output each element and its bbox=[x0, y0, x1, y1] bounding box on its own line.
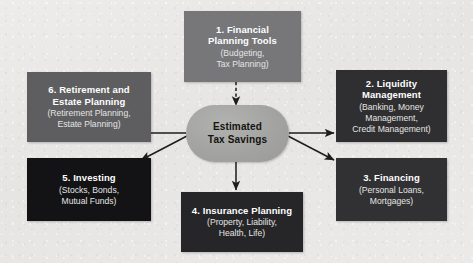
node-sub-line1: (Retirement Planning, bbox=[47, 108, 130, 118]
node-title: 6. Retirement and Estate Planning bbox=[48, 84, 129, 107]
node-title-line2: Planning Tools bbox=[208, 35, 277, 46]
hub-label: Estimated Tax Savings bbox=[208, 121, 267, 146]
node-title-line2: Management bbox=[362, 89, 421, 100]
node-subtitle: (Property, Liability, Health, Life) bbox=[207, 217, 277, 239]
node-title-line1: 4. Insurance Planning bbox=[192, 205, 292, 216]
node-sub-line1: (Banking, Money bbox=[359, 102, 424, 112]
node-title: 4. Insurance Planning bbox=[192, 205, 292, 217]
node-sub-line1: (Personal Loans, bbox=[359, 185, 424, 195]
node-subtitle: (Budgeting, Tax Planning) bbox=[216, 48, 268, 70]
connector-hub-to-financing bbox=[288, 136, 334, 160]
node-title: 5. Investing bbox=[62, 172, 115, 184]
node-financial-planning-tools[interactable]: 1. Financial Planning Tools (Budgeting, … bbox=[184, 11, 301, 82]
node-subtitle: (Personal Loans, Mortgages) bbox=[359, 185, 424, 207]
node-insurance-planning[interactable]: 4. Insurance Planning (Property, Liabili… bbox=[181, 192, 303, 252]
node-sub-line3: Credit Management) bbox=[352, 124, 430, 134]
node-investing[interactable]: 5. Investing (Stocks, Bonds, Mutual Fund… bbox=[27, 158, 151, 221]
node-title-line1: 5. Investing bbox=[62, 172, 115, 183]
node-subtitle: (Stocks, Bonds, Mutual Funds) bbox=[59, 185, 119, 207]
node-sub-line2: Tax Planning) bbox=[216, 59, 268, 69]
node-title: 1. Financial Planning Tools bbox=[208, 24, 277, 47]
node-sub-line2: Mortgages) bbox=[370, 196, 413, 206]
node-liquidity-management[interactable]: 2. Liquidity Management (Banking, Money … bbox=[336, 70, 447, 142]
node-title-line1: 1. Financial bbox=[216, 24, 269, 35]
node-financing[interactable]: 3. Financing (Personal Loans, Mortgages) bbox=[336, 158, 447, 221]
hub-label-line1: Estimated bbox=[213, 121, 262, 132]
node-sub-line2: Health, Life) bbox=[219, 228, 265, 238]
node-sub-line2: Estate Planning) bbox=[57, 119, 120, 129]
node-title-line1: 2. Liquidity bbox=[366, 78, 417, 89]
node-title-line1: 3. Financing bbox=[363, 172, 420, 183]
hub-label-line2: Tax Savings bbox=[208, 134, 267, 145]
node-title: 2. Liquidity Management bbox=[362, 78, 421, 101]
node-sub-line1: (Budgeting, bbox=[221, 48, 265, 58]
node-sub-line2: Management, bbox=[365, 113, 418, 123]
node-title-line1: 6. Retirement and bbox=[48, 84, 129, 95]
tax-savings-diagram: 1. Financial Planning Tools (Budgeting, … bbox=[0, 0, 473, 263]
node-sub-line2: Mutual Funds) bbox=[62, 196, 117, 206]
node-subtitle: (Retirement Planning, Estate Planning) bbox=[47, 108, 130, 130]
node-retirement-and-estate-planning[interactable]: 6. Retirement and Estate Planning (Retir… bbox=[27, 72, 151, 142]
node-title-line2: Estate Planning bbox=[53, 96, 126, 107]
node-title: 3. Financing bbox=[363, 172, 420, 184]
hub-estimated-tax-savings[interactable]: Estimated Tax Savings bbox=[186, 105, 289, 162]
node-sub-line1: (Property, Liability, bbox=[207, 217, 277, 227]
node-subtitle: (Banking, Money Management, Credit Manag… bbox=[352, 102, 430, 135]
node-sub-line1: (Stocks, Bonds, bbox=[59, 185, 119, 195]
